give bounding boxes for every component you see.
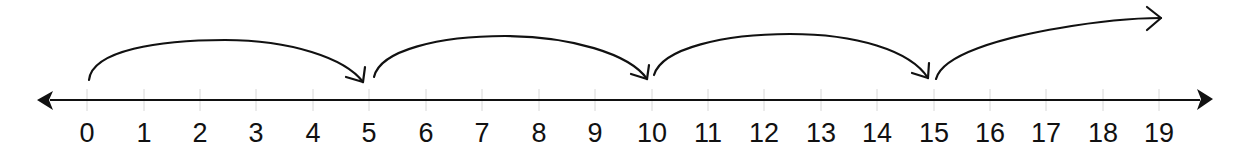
tick-label: 8: [531, 118, 546, 148]
tick-label: 16: [975, 118, 1005, 148]
tick-label: 12: [749, 118, 779, 148]
tick-label: 18: [1088, 118, 1118, 148]
tick-label: 14: [862, 118, 892, 148]
tick-label: 17: [1031, 118, 1061, 148]
tick-label: 7: [474, 118, 489, 148]
jump-arcs: [89, 7, 1161, 82]
tick-label: 9: [587, 118, 602, 148]
tick-label: 11: [694, 118, 722, 148]
tick-label: 3: [248, 118, 263, 148]
tick-label: 13: [806, 118, 836, 148]
number-line-diagram: 012345678910111213141516171819: [0, 0, 1243, 151]
tick-label: 10: [637, 118, 667, 148]
tick-label: 19: [1144, 118, 1174, 148]
jump-arc-0-to-5: [89, 40, 363, 82]
jump-arc-10-to-15: [654, 34, 928, 78]
tick-label: 5: [361, 118, 376, 148]
tick-label: 15: [919, 118, 949, 148]
tick-label: 0: [79, 118, 94, 148]
jump-arc-15-onward: [936, 18, 1161, 79]
tick-labels: 012345678910111213141516171819: [79, 118, 1174, 148]
tick-label: 6: [418, 118, 433, 148]
jump-arc-5-to-10: [374, 36, 647, 79]
tick-label: 2: [192, 118, 207, 148]
tick-label: 1: [136, 118, 151, 148]
tick-label: 4: [305, 118, 320, 148]
